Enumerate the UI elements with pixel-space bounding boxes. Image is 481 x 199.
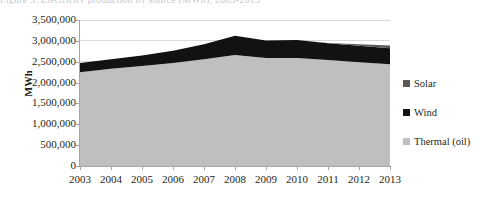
x-axis-tick-labels: 2003200420052006200720082009201020112012… <box>0 172 481 194</box>
y-axis-tick <box>76 83 80 84</box>
y-axis-tick <box>76 124 80 125</box>
legend-swatch-icon <box>403 138 410 145</box>
x-axis-tick <box>173 166 174 170</box>
x-axis-tick <box>235 166 236 170</box>
x-axis-tick <box>111 166 112 170</box>
y-axis-tick <box>76 145 80 146</box>
legend-swatch-icon <box>403 109 410 116</box>
x-axis-tick <box>204 166 205 170</box>
y-axis-tick-labels: 3,500,0003,000,0002,500,0002,000,0001,50… <box>0 0 76 199</box>
x-axis-tick <box>328 166 329 170</box>
y-axis-tick <box>76 62 80 63</box>
y-tick-label: 3,500,000 <box>4 14 76 25</box>
legend-item-wind[interactable]: Wind <box>403 107 437 118</box>
plot-area <box>80 20 390 166</box>
y-tick-label: 1,500,000 <box>4 97 76 108</box>
y-tick-label: 0 <box>4 160 76 171</box>
chart-legend: SolarWindThermal (oil) <box>403 78 481 158</box>
y-tick-label: 2,500,000 <box>4 56 76 67</box>
legend-item-solar[interactable]: Solar <box>403 78 436 89</box>
y-tick-label: 1,000,000 <box>4 118 76 129</box>
y-tick-label: 3,000,000 <box>4 35 76 46</box>
x-axis-tick <box>297 166 298 170</box>
y-tick-label: 2,000,000 <box>4 77 76 88</box>
y-axis-tick <box>76 41 80 42</box>
chart-figure: Figure 3: Electricity production by sour… <box>0 0 481 199</box>
x-axis-tick <box>142 166 143 170</box>
x-axis-tick <box>390 166 391 170</box>
x-tick-label: 2013 <box>368 172 412 186</box>
y-axis-tick <box>76 166 80 167</box>
stacked-area-svg <box>80 20 390 166</box>
legend-label: Wind <box>414 107 437 118</box>
y-axis-tick <box>76 103 80 104</box>
legend-item-thermal-oil[interactable]: Thermal (oil) <box>403 136 470 147</box>
x-axis-tick <box>266 166 267 170</box>
legend-label: Thermal (oil) <box>414 136 470 147</box>
x-axis-tick <box>359 166 360 170</box>
legend-swatch-icon <box>403 80 410 87</box>
y-tick-label: 500,000 <box>4 139 76 150</box>
y-axis-tick <box>76 20 80 21</box>
legend-label: Solar <box>414 78 436 89</box>
x-axis-tick <box>80 166 81 170</box>
area-series-thermal-oil <box>80 55 390 166</box>
